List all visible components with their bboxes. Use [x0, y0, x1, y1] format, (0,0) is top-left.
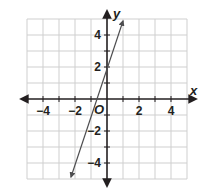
x-tick-label: −2: [68, 104, 82, 118]
y-tick-label: 2: [94, 60, 101, 74]
y-tick-label: −2: [87, 124, 101, 138]
x-tick-label: 4: [168, 104, 175, 118]
x-tick-label: 2: [136, 104, 143, 118]
y-axis-label: y: [112, 6, 121, 21]
x-tick-label: −4: [36, 104, 50, 118]
coordinate-plane: −4 −2 2 4 4 2 −2 −4 O x y: [0, 0, 208, 191]
y-tick-label: −4: [87, 156, 101, 170]
y-tick-label: 4: [94, 28, 101, 42]
x-axis-label: x: [189, 83, 198, 98]
